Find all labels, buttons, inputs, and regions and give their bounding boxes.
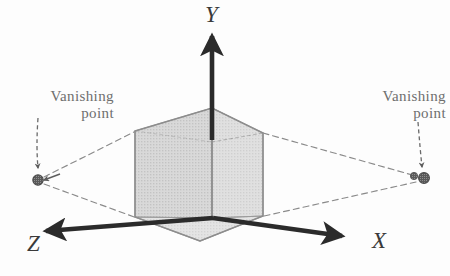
vanishing-point-right-marker-secondary	[410, 172, 417, 179]
vanishing-point-right-label: Vanishing point	[336, 88, 446, 122]
diagram-canvas: Vanishing point Vanishing point Y Z X	[0, 0, 450, 276]
vanishing-point-left-label-line1: Vanishing	[50, 88, 114, 104]
vanishing-point-left-label-line2: point	[6, 105, 114, 122]
axis-label-z: Z	[27, 231, 40, 257]
vanishing-point-left-inward-arrow	[44, 174, 60, 180]
vanishing-point-right-pointer	[418, 122, 422, 167]
axis-label-y: Y	[205, 2, 218, 28]
vanishing-point-right-label-line2: point	[336, 105, 446, 122]
vanishing-point-left-label: Vanishing point	[6, 88, 114, 122]
vanishing-point-left-marker	[33, 175, 43, 185]
vanishing-point-right-label-line1: Vanishing	[382, 88, 446, 104]
vanishing-point-left-pointer	[37, 118, 38, 168]
vanishing-point-right-marker	[419, 173, 430, 184]
axis-label-x: X	[372, 228, 386, 254]
